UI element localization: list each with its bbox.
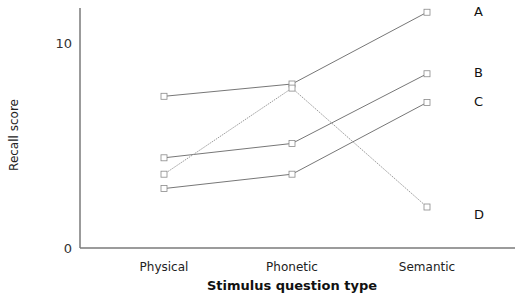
series-layer: ABCD — [161, 4, 484, 222]
series-line — [164, 12, 427, 96]
y-tick-label: 10 — [55, 36, 72, 51]
series-line — [164, 74, 427, 158]
series-line — [164, 102, 427, 188]
square-marker-icon — [424, 71, 430, 77]
square-marker-icon — [289, 85, 295, 91]
square-marker-icon — [289, 171, 295, 177]
y-tick-label: 0 — [64, 241, 72, 256]
series-D: D — [161, 85, 484, 222]
series-label: D — [474, 207, 484, 222]
square-marker-icon — [424, 204, 430, 210]
series-line — [164, 88, 427, 207]
line-chart: 10 0 Recall score Physical Phonetic Sema… — [0, 0, 527, 301]
square-marker-icon — [161, 155, 167, 161]
y-axis-title: Recall score — [7, 99, 21, 171]
series-label: A — [474, 4, 483, 19]
series-label: C — [474, 94, 483, 109]
series-label: B — [474, 65, 483, 80]
series-B: B — [161, 65, 483, 161]
x-axis-title: Stimulus question type — [207, 278, 377, 293]
square-marker-icon — [424, 99, 430, 105]
series-A: A — [161, 4, 483, 99]
square-marker-icon — [161, 186, 167, 192]
series-C: C — [161, 94, 483, 192]
square-marker-icon — [424, 9, 430, 15]
x-tick-label: Semantic — [399, 260, 455, 274]
square-marker-icon — [289, 140, 295, 146]
square-marker-icon — [161, 171, 167, 177]
x-tick-label: Physical — [140, 260, 189, 274]
x-tick-label: Phonetic — [266, 260, 318, 274]
square-marker-icon — [161, 93, 167, 99]
